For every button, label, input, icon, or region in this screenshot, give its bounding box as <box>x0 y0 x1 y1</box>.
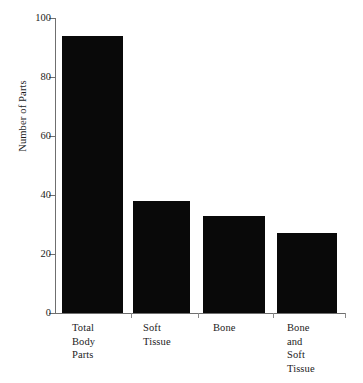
y-axis-tick-label: 0 <box>46 305 51 321</box>
y-axis-tick-label: 100 <box>35 10 51 26</box>
bar <box>62 36 123 313</box>
y-axis-tick-label: 80 <box>41 69 52 85</box>
y-axis-tick-label: 20 <box>41 246 52 262</box>
y-axis-line <box>55 18 56 314</box>
bar <box>277 233 337 313</box>
y-axis-tick-label: 40 <box>41 187 52 203</box>
bar-chart-figure: Number of Parts 020406080100 Total Body … <box>0 0 363 383</box>
plot-area: 020406080100 Total Body PartsSoft Tissue… <box>55 18 345 313</box>
x-axis-category-label: Soft Tissue <box>143 321 171 348</box>
x-axis-separator-tick <box>198 313 199 318</box>
y-axis-title: Number of Parts <box>12 46 34 186</box>
x-axis-line <box>55 313 345 314</box>
y-axis-tick-label: 60 <box>41 128 52 144</box>
bar <box>203 216 265 313</box>
x-axis-separator-tick <box>273 313 274 318</box>
x-axis-separator-tick <box>345 313 346 318</box>
x-axis-category-label: Bone and Soft Tissue <box>287 321 315 375</box>
x-axis-category-label: Bone <box>213 321 236 335</box>
x-axis-separator-tick <box>131 313 132 318</box>
bar <box>133 201 190 313</box>
x-axis-category-label: Total Body Parts <box>72 321 95 362</box>
